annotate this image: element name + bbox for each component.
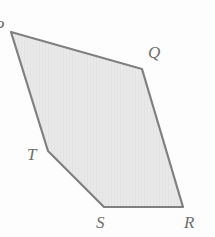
vertex-label-t: T (27, 146, 36, 163)
vertex-label-s: S (96, 214, 105, 231)
pentagon-svg (0, 0, 215, 237)
vertex-label-p: P (0, 18, 4, 35)
geometry-figure: P Q R S T (0, 0, 215, 237)
vertex-label-q: Q (148, 44, 160, 61)
vertex-label-r: R (184, 214, 194, 231)
